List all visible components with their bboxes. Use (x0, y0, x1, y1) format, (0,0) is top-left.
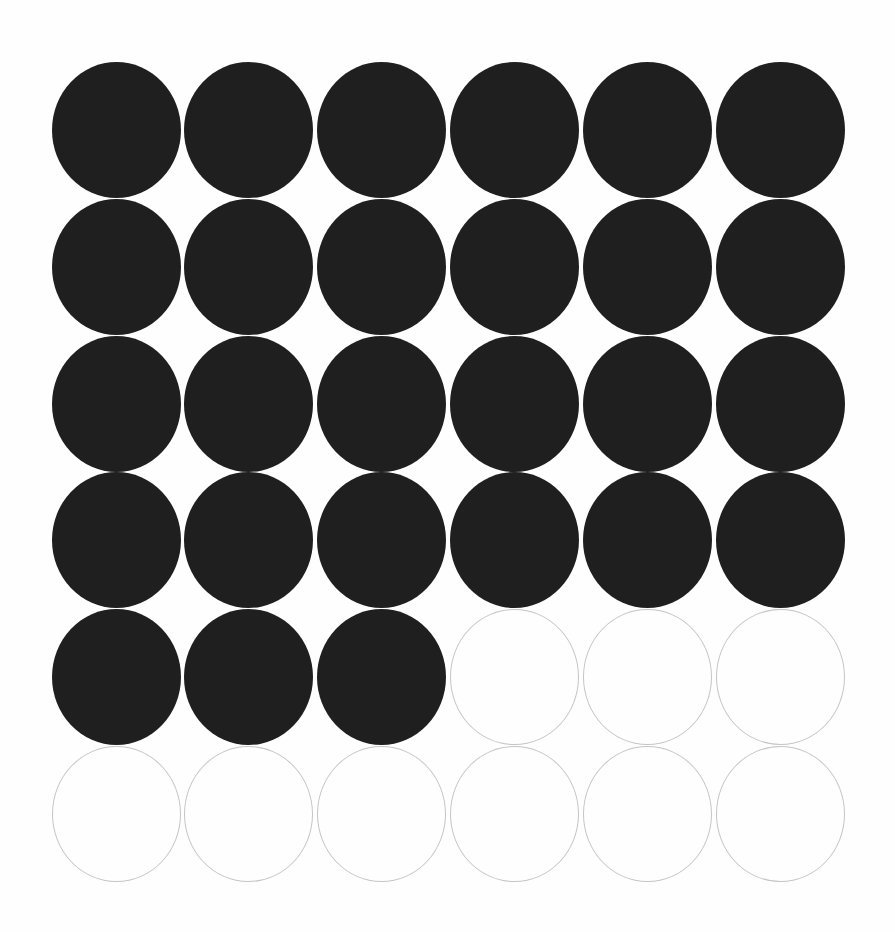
filled-dot (317, 609, 446, 745)
filled-dot (317, 62, 446, 198)
empty-dot (583, 609, 712, 745)
filled-dot (184, 336, 313, 472)
filled-dot (716, 62, 845, 198)
filled-dot (450, 472, 579, 608)
filled-dot (716, 336, 845, 472)
filled-dot (184, 609, 313, 745)
empty-dot (716, 609, 845, 745)
filled-dot (583, 199, 712, 335)
dot-grid-figure (0, 0, 895, 932)
filled-dot (317, 472, 446, 608)
filled-dot (52, 62, 181, 198)
empty-dot (317, 746, 446, 882)
filled-dot (52, 609, 181, 745)
filled-dot (184, 62, 313, 198)
filled-dot (583, 62, 712, 198)
empty-dot (184, 746, 313, 882)
empty-dot (52, 746, 181, 882)
filled-dot (450, 62, 579, 198)
filled-dot (52, 199, 181, 335)
filled-dot (583, 472, 712, 608)
filled-dot (52, 472, 181, 608)
filled-dot (716, 472, 845, 608)
empty-dot (583, 746, 712, 882)
filled-dot (184, 472, 313, 608)
empty-dot (450, 746, 579, 882)
filled-dot (450, 336, 579, 472)
filled-dot (317, 199, 446, 335)
empty-dot (450, 609, 579, 745)
filled-dot (450, 199, 579, 335)
filled-dot (317, 336, 446, 472)
filled-dot (52, 336, 181, 472)
filled-dot (716, 199, 845, 335)
empty-dot (716, 746, 845, 882)
filled-dot (583, 336, 712, 472)
filled-dot (184, 199, 313, 335)
